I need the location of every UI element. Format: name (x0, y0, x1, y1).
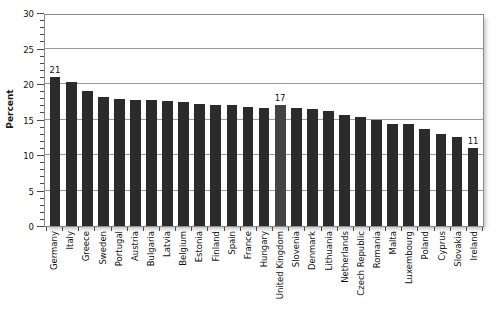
y-axis: 051015202530 (0, 14, 44, 227)
bar-slot: 17 (272, 15, 288, 226)
bar[interactable] (452, 137, 463, 226)
bar[interactable] (387, 124, 398, 226)
y-tick-major (37, 13, 44, 14)
x-axis-tick-label: Poland (421, 231, 430, 259)
x-axis-tick-label: Czech Republic (356, 231, 365, 296)
bar[interactable] (291, 108, 302, 226)
y-tick-major (37, 84, 44, 85)
y-tick-label: 25 (23, 45, 34, 55)
bar-slot (288, 15, 304, 226)
bar-slot (127, 15, 143, 226)
bar-slot (320, 15, 336, 226)
x-axis-tick-label: Sweden (98, 231, 107, 265)
bar-slot (369, 15, 385, 226)
bar-slot (256, 15, 272, 226)
x-axis-tick-label: Bulgaria (146, 231, 155, 266)
x-axis-tick-label: Estonia (195, 231, 204, 262)
bar-slot (304, 15, 320, 226)
y-tick-major (37, 120, 44, 121)
x-axis-tick-label: Romania (373, 231, 382, 268)
bar[interactable] (98, 97, 109, 226)
y-tick-major (37, 191, 44, 192)
bar[interactable] (436, 134, 447, 226)
bar[interactable] (210, 105, 221, 226)
bar-slot: 21 (47, 15, 63, 226)
bar-series: 211711 (45, 15, 483, 226)
y-tick-label: 0 (29, 222, 34, 232)
plot-area: 211711 (44, 14, 484, 227)
x-axis-tick-label: Slovenia (292, 231, 301, 267)
x-axis-tick-label: United Kingdom (276, 231, 285, 299)
bar[interactable] (82, 91, 93, 226)
bar[interactable] (259, 108, 270, 226)
x-axis-tick-label: Luxembourg (405, 231, 414, 284)
plot-inner: 211711 (45, 15, 483, 226)
bar[interactable] (114, 99, 125, 226)
y-tick-major (37, 155, 44, 156)
y-tick-label: 20 (23, 80, 34, 90)
x-axis-tick-label: Denmark (308, 231, 317, 270)
bar-slot (449, 15, 465, 226)
bar[interactable] (243, 107, 254, 226)
y-tick-major (37, 49, 44, 50)
bar-slot (208, 15, 224, 226)
x-axis-tick-label: Latvia (163, 231, 172, 257)
chart-figure: Percent 051015202530 211711 GermanyItaly… (0, 0, 499, 313)
x-axis-tick-label: Ireland (469, 231, 478, 260)
bar[interactable] (307, 109, 318, 226)
bar[interactable] (66, 82, 77, 226)
bar-slot (95, 15, 111, 226)
bar-slot (433, 15, 449, 226)
bar-slot (160, 15, 176, 226)
bar-slot (401, 15, 417, 226)
bar-value-label: 21 (50, 65, 61, 75)
x-axis-tick-label: Austria (130, 231, 139, 261)
bar[interactable] (50, 77, 61, 226)
x-axis-tick-label: Spain (227, 231, 236, 255)
x-axis-labels: GermanyItalyGreeceSwedenPortugalAustriaB… (44, 231, 484, 293)
x-axis-tick-label: Malta (389, 231, 398, 254)
x-axis-tick-label: Italy (66, 231, 75, 249)
bar[interactable] (371, 120, 382, 226)
bar-slot (111, 15, 127, 226)
x-axis-tick-label: Finland (211, 231, 220, 261)
bar[interactable] (323, 111, 334, 226)
bar[interactable] (227, 105, 238, 226)
bar-slot (385, 15, 401, 226)
x-axis-tick-label: Slovakia (453, 231, 462, 267)
bar[interactable] (403, 124, 414, 226)
bar-slot (143, 15, 159, 226)
x-axis-tick-label: Netherlands (340, 231, 349, 283)
bar-slot (192, 15, 208, 226)
bar-value-label: 17 (275, 93, 286, 103)
bar-slot: 11 (465, 15, 481, 226)
x-axis-tick-label: Cyprus (437, 231, 446, 261)
bar-slot (240, 15, 256, 226)
x-axis-tick-label: Portugal (114, 231, 123, 266)
bar[interactable] (146, 100, 157, 226)
bar-slot (79, 15, 95, 226)
bar[interactable] (468, 148, 479, 226)
bar[interactable] (419, 129, 430, 226)
x-axis-tick-label: Lithuania (324, 231, 333, 270)
bar[interactable] (194, 104, 205, 226)
bar[interactable] (355, 117, 366, 226)
y-tick-label: 30 (23, 9, 34, 19)
y-tick-major (37, 226, 44, 227)
x-axis-tick-label: Greece (82, 231, 91, 261)
bar[interactable] (162, 101, 173, 226)
bar[interactable] (339, 115, 350, 226)
x-axis-tick-label: Belgium (179, 231, 188, 266)
bar-slot (336, 15, 352, 226)
bar[interactable] (130, 100, 141, 226)
bar-slot (176, 15, 192, 226)
bar[interactable] (178, 102, 189, 226)
y-tick-label: 10 (23, 151, 34, 161)
bar-slot (352, 15, 368, 226)
x-axis-tick-label: Germany (50, 231, 59, 270)
bar-slot (224, 15, 240, 226)
bar-slot (417, 15, 433, 226)
bar[interactable] (275, 105, 286, 226)
y-tick-label: 5 (29, 187, 34, 197)
x-axis-tick-label: Hungary (260, 231, 269, 267)
